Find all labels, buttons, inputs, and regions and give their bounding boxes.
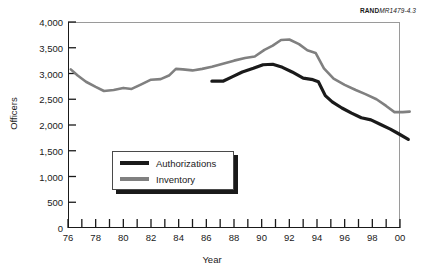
legend-item-authorizations[interactable]: Authorizations — [120, 155, 216, 171]
x-tick-label: 86 — [191, 232, 221, 243]
y-axis-title: Officers — [8, 79, 19, 149]
y-tick-label: 3,000 — [3, 68, 63, 79]
x-tick-label: 90 — [247, 232, 277, 243]
x-axis-title: Year — [0, 254, 424, 265]
legend-label-inventory: Inventory — [156, 174, 195, 185]
x-tick-label: 82 — [136, 232, 166, 243]
series-line-inventory — [71, 40, 410, 113]
x-tick-label: 88 — [219, 232, 249, 243]
series-lines — [71, 40, 410, 140]
y-tick-label: 500 — [3, 197, 63, 208]
legend-swatch-authorizations — [120, 161, 149, 165]
y-axis-ticks — [68, 22, 76, 202]
legend-item-inventory[interactable]: Inventory — [120, 171, 195, 187]
x-tick-label: 84 — [164, 232, 194, 243]
y-tick-label: 3,500 — [3, 42, 63, 53]
x-tick-label: 92 — [274, 232, 304, 243]
legend-label-authorizations: Authorizations — [156, 158, 216, 169]
x-tick-label: 00 — [385, 232, 415, 243]
chart-figure: RANDMR1479-4.3 05001,0001,5002,0002,5003… — [0, 0, 424, 278]
x-tick-label: 78 — [81, 232, 111, 243]
chart-legend: Authorizations Inventory — [112, 151, 234, 190]
legend-box: Authorizations Inventory — [112, 151, 234, 190]
x-axis-ticks — [68, 219, 400, 228]
x-tick-label: 94 — [302, 232, 332, 243]
x-tick-label: 76 — [53, 232, 83, 243]
y-tick-label: 1,000 — [3, 171, 63, 182]
legend-swatch-inventory — [120, 177, 149, 180]
x-tick-label: 96 — [330, 232, 360, 243]
x-tick-label: 80 — [108, 232, 138, 243]
y-tick-label: 4,000 — [3, 17, 63, 28]
x-tick-label: 98 — [357, 232, 387, 243]
